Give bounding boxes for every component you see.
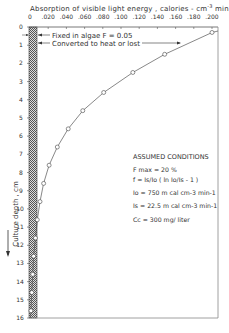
svg-text:3: 3 <box>19 78 23 85</box>
svg-text:0: 0 <box>19 23 23 30</box>
svg-text:.100: .100 <box>114 13 128 20</box>
svg-text:13: 13 <box>16 259 24 266</box>
svg-text:14: 14 <box>16 278 24 285</box>
svg-text:.020: .020 <box>42 13 56 20</box>
plot-frame <box>29 27 218 318</box>
svg-text:1: 1 <box>19 41 23 48</box>
svg-text:7: 7 <box>19 150 23 157</box>
y-axis-ticks: 012345678910111213141516 <box>6 23 29 321</box>
condition-cc: Cc = 300 mg/ liter <box>133 216 190 223</box>
condition-f-equation: f = Is/Io ( ln Io/Is - 1 ) <box>133 176 198 183</box>
svg-text:6: 6 <box>19 132 23 139</box>
annotation-converted: Converted to heat or lost <box>52 40 140 48</box>
svg-text:2: 2 <box>19 59 23 66</box>
svg-text:4: 4 <box>19 96 23 103</box>
svg-text:16: 16 <box>16 314 24 321</box>
svg-text:.040: .040 <box>60 13 74 20</box>
svg-text:.120: .120 <box>133 13 147 20</box>
y-axis-label: Culture depth , cm <box>12 174 20 254</box>
svg-text:.140: .140 <box>151 13 165 20</box>
svg-text:.180: .180 <box>187 13 201 20</box>
svg-text:0: 0 <box>28 13 32 20</box>
svg-text:15: 15 <box>16 296 24 303</box>
conditions-heading: ASSUMED CONDITIONS <box>133 153 209 161</box>
condition-io: Io = 750 m cal cm-3 min-1 <box>133 189 216 196</box>
svg-text:5: 5 <box>19 114 23 121</box>
condition-fmax: F max = 20 % <box>133 166 177 173</box>
data-curve <box>22 30 218 318</box>
chart-plot: 0.020.040.060.080.100.120.140.160.180.20… <box>0 0 229 333</box>
svg-text:.060: .060 <box>78 13 92 20</box>
svg-text:.200: .200 <box>205 13 219 20</box>
svg-text:.080: .080 <box>96 13 110 20</box>
svg-text:.160: .160 <box>169 13 183 20</box>
annotation-fixed: Fixed in algae F = 0.05 <box>52 32 132 40</box>
condition-is: Is = 22.5 m cal cm-3 min-1 <box>133 202 217 209</box>
